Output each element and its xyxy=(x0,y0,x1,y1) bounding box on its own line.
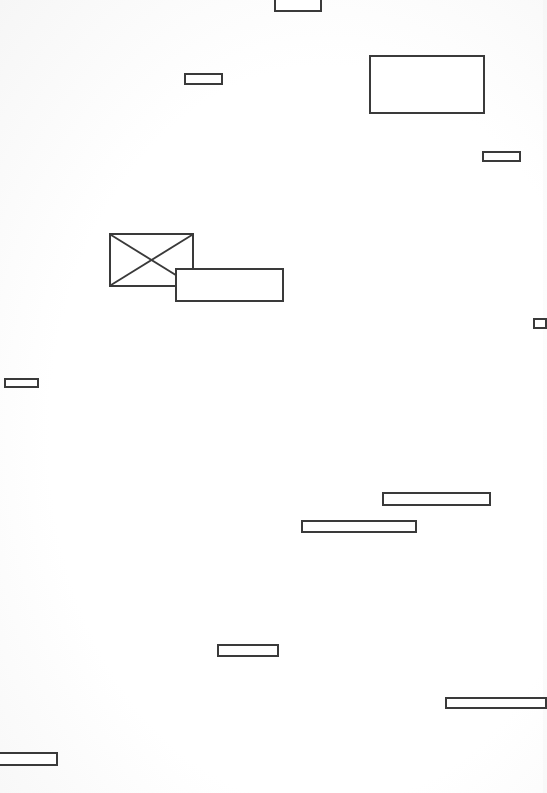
bar-box-bottom-right[interactable] xyxy=(445,697,547,709)
small-field-box-center[interactable] xyxy=(217,644,279,657)
top-right-panel-box xyxy=(369,55,485,114)
bar-box-2[interactable] xyxy=(301,520,417,533)
small-field-box-left[interactable] xyxy=(4,378,39,388)
small-field-box-right[interactable] xyxy=(482,151,521,162)
bar-box-1[interactable] xyxy=(382,492,491,506)
caption-box xyxy=(175,268,284,302)
top-tab-box[interactable] xyxy=(274,0,322,12)
edge-handle-box[interactable] xyxy=(533,318,547,329)
small-field-box[interactable] xyxy=(184,73,223,85)
bar-box-bottom-left[interactable] xyxy=(0,752,58,766)
